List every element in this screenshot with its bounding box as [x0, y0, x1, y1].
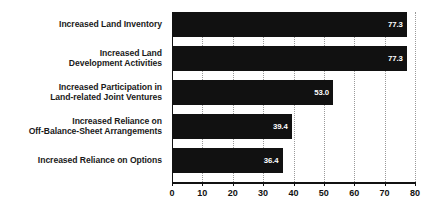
category-label-line: Off-Balance-Sheet Arrangements [0, 126, 162, 137]
x-tick-label-40: 40 [279, 188, 309, 198]
bar-value-label: 77.3 [385, 12, 403, 37]
bar-row: 36.4 [172, 148, 415, 173]
x-tick-label-10: 10 [187, 188, 217, 198]
category-label-line: Increased Participation in [0, 82, 162, 93]
x-axis-ticks: 01020304050607080 [172, 182, 415, 208]
x-tick-label-0: 0 [157, 188, 187, 198]
bar-row: 53.0 [172, 80, 415, 105]
bar [172, 80, 333, 105]
bar-series: 77.377.353.039.436.4 [172, 12, 415, 182]
x-tick-label-30: 30 [248, 188, 278, 198]
category-label: Increased Land Inventory [0, 19, 162, 30]
bar-row: 77.3 [172, 46, 415, 71]
category-label: Increased LandDevelopment Activities [0, 48, 162, 69]
plot-area: 77.377.353.039.436.4 [172, 12, 415, 182]
x-tick-mark-30 [263, 182, 264, 186]
x-tick-mark-0 [172, 182, 173, 186]
category-label: Increased Reliance onOff-Balance-Sheet A… [0, 116, 162, 137]
category-label-line: Development Activities [0, 58, 162, 69]
category-label-line: Land-related Joint Ventures [0, 92, 162, 103]
bar-value-label: 36.4 [261, 148, 279, 173]
x-tick-mark-20 [233, 182, 234, 186]
x-tick-mark-60 [354, 182, 355, 186]
x-tick-mark-80 [415, 182, 416, 186]
x-tick-label-60: 60 [339, 188, 369, 198]
category-axis-labels: Increased Land InventoryIncreased LandDe… [0, 12, 168, 182]
x-tick-mark-10 [202, 182, 203, 186]
x-tick-label-70: 70 [370, 188, 400, 198]
gridline-80 [415, 12, 417, 182]
category-label: Increased Reliance on Options [0, 155, 162, 166]
category-label-line: Increased Land [0, 48, 162, 59]
bar [172, 46, 407, 71]
x-tick-label-80: 80 [400, 188, 430, 198]
category-label-line: Increased Reliance on [0, 116, 162, 127]
x-tick-mark-50 [324, 182, 325, 186]
x-tick-mark-40 [294, 182, 295, 186]
bar [172, 12, 407, 37]
category-label: Increased Participation inLand-related J… [0, 82, 162, 103]
x-tick-mark-70 [385, 182, 386, 186]
bar-row: 77.3 [172, 12, 415, 37]
bar-value-label: 39.4 [270, 114, 288, 139]
category-label-line: Increased Land Inventory [0, 19, 162, 30]
bar-value-label: 53.0 [311, 80, 329, 105]
bar-row: 39.4 [172, 114, 415, 139]
x-tick-label-50: 50 [309, 188, 339, 198]
bar-value-label: 77.3 [385, 46, 403, 71]
category-label-line: Increased Reliance on Options [0, 155, 162, 166]
x-tick-label-20: 20 [218, 188, 248, 198]
bar-chart: Increased Land InventoryIncreased LandDe… [0, 0, 434, 218]
